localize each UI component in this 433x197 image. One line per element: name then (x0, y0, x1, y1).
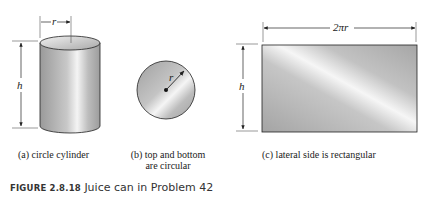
cylinder-height-dimension (12, 41, 38, 128)
caption-a: (a) circle cylinder (18, 149, 128, 160)
figure-title: Juice can in Problem 42 (84, 181, 213, 194)
caption-b-line2: are circular (126, 160, 210, 171)
circular-disk-shape (137, 61, 195, 119)
caption-b: (b) top and bottom are circular (126, 149, 210, 171)
rectangle-height-label: h (239, 79, 245, 93)
juice-can-diagram (0, 0, 433, 197)
cylinder-height-label: h (17, 78, 23, 92)
lateral-rectangle-shape (262, 45, 417, 132)
cylinder-shape (40, 36, 100, 133)
figure-label: FIGURE 2.8.18 (10, 183, 81, 193)
disk-radius-label: r (169, 71, 173, 83)
figure-caption: FIGURE 2.8.18 Juice can in Problem 42 (10, 181, 213, 194)
cylinder-radius-label: r (51, 15, 57, 27)
rectangle-width-label: 2πr (333, 21, 348, 33)
caption-c: (c) lateral side is rectangular (262, 149, 422, 160)
caption-b-line1: (b) top and bottom (126, 149, 210, 160)
